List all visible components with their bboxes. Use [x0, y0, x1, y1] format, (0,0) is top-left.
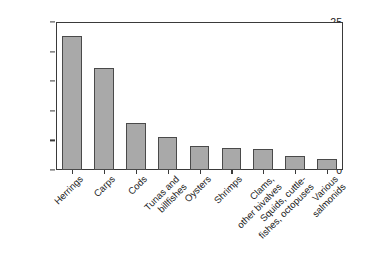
x-tick-mark: [295, 170, 296, 174]
bar: [94, 68, 114, 170]
y-tick-mark: [50, 81, 55, 82]
bar: [253, 149, 273, 170]
bar-chart: Million tons 0510152025 HerringsCarpsCod…: [0, 0, 380, 260]
x-tick-mark: [72, 170, 73, 174]
bar: [62, 36, 82, 170]
bar: [285, 156, 305, 170]
x-tick-mark: [327, 170, 328, 174]
bar: [190, 146, 210, 170]
x-tick-mark: [136, 170, 137, 174]
bars-layer: [56, 22, 343, 170]
bar: [126, 123, 146, 170]
y-tick-mark: [50, 169, 55, 170]
bar: [158, 137, 178, 170]
y-tick-mark: [50, 21, 55, 22]
y-tick-mark: [50, 140, 55, 141]
y-tick-mark: [50, 51, 55, 52]
x-tick-mark: [168, 170, 169, 174]
bar: [222, 148, 242, 170]
x-tick-mark: [263, 170, 264, 174]
bar: [317, 159, 337, 170]
x-tick-mark: [231, 170, 232, 174]
x-tick-mark: [200, 170, 201, 174]
y-tick-mark: [50, 110, 55, 111]
x-tick-mark: [104, 170, 105, 174]
